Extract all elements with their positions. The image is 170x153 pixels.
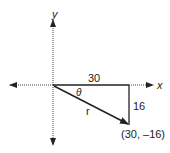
vector-r	[54, 86, 128, 124]
horizontal-leg-label: 30	[88, 72, 100, 84]
vector-diagram: y x 30 16 θ r (30, –16)	[0, 0, 170, 153]
x-axis-label: x	[156, 79, 163, 91]
endpoint-label: (30, –16)	[121, 128, 165, 140]
hypotenuse-label: r	[86, 105, 90, 117]
y-axis-label: y	[51, 8, 59, 20]
vertical-leg-label: 16	[133, 100, 145, 112]
angle-label: θ	[76, 87, 82, 98]
